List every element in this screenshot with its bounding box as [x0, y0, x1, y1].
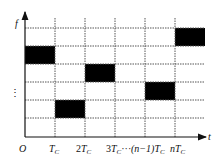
x-axis-label: t	[208, 131, 211, 142]
y-axis-label: f	[15, 18, 19, 29]
hop-cell	[25, 46, 55, 64]
x-tick-tc: TC	[49, 143, 60, 156]
frequency-hopping-diagram: f t O ⋮ TC 2TC 3TC··· (n−1)TC nTC	[0, 0, 219, 163]
x-tick-3tc: 3TC···	[106, 143, 131, 156]
vertical-ellipsis: ⋮	[10, 87, 20, 98]
hop-cell	[175, 28, 205, 46]
origin-label: O	[19, 143, 26, 154]
x-tick-2tc: 2TC	[76, 143, 92, 156]
hop-cell	[85, 64, 115, 82]
diagram-svg: f t O ⋮ TC 2TC 3TC··· (n−1)TC nTC	[0, 0, 219, 163]
x-tick-n-1-tc: (n−1)TC	[131, 143, 165, 156]
hop-cell	[145, 82, 175, 100]
hop-cell	[55, 100, 85, 118]
x-tick-ntc: nTC	[170, 143, 186, 156]
